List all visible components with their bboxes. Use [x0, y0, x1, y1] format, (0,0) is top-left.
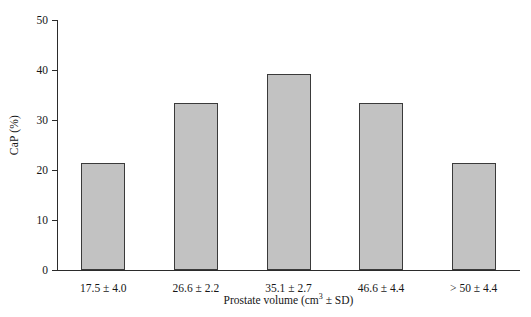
y-tick-mark — [52, 120, 57, 121]
x-axis-line — [57, 270, 520, 271]
y-tick-label: 50 — [37, 14, 49, 26]
bar — [267, 74, 311, 270]
y-axis-title: CaP (%) — [0, 0, 28, 270]
y-tick-mark — [52, 270, 57, 271]
x-tick-label: 17.5 ± 4.0 — [80, 282, 127, 294]
bar — [359, 103, 403, 270]
x-tick-label: 46.6 ± 4.4 — [358, 282, 405, 294]
bar — [174, 103, 218, 270]
y-axis-title-text: CaP (%) — [8, 115, 20, 155]
x-tick-label: 26.6 ± 2.2 — [173, 282, 220, 294]
y-axis-line — [57, 20, 58, 270]
x-axis-title-prefix: Prostate volume (cm — [224, 294, 319, 306]
bar-chart-figure: CaP (%) 01020304050 17.5 ± 4.026.6 ± 2.2… — [0, 0, 531, 317]
bar — [81, 163, 125, 270]
x-axis-title-suffix: ± SD) — [323, 294, 354, 306]
y-tick-mark — [52, 70, 57, 71]
x-tick-label: > 50 ± 4.4 — [450, 282, 497, 294]
y-tick-label: 20 — [37, 164, 49, 176]
y-tick-mark — [52, 20, 57, 21]
y-tick-mark — [52, 170, 57, 171]
plot-area: 01020304050 17.5 ± 4.026.6 ± 2.235.1 ± 2… — [57, 20, 520, 270]
bar — [452, 163, 496, 270]
x-axis-title: Prostate volume (cm3 ± SD) — [57, 294, 520, 306]
y-tick-label: 0 — [42, 264, 48, 276]
y-tick-mark — [52, 220, 57, 221]
y-tick-label: 10 — [37, 214, 49, 226]
y-tick-label: 40 — [37, 64, 49, 76]
x-tick-label: 35.1 ± 2.7 — [265, 282, 312, 294]
y-tick-label: 30 — [37, 114, 49, 126]
